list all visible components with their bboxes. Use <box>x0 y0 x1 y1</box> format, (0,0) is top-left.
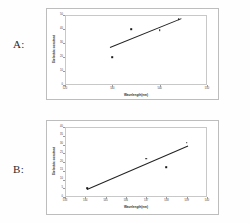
x-axis-title: Wavelength(nm) <box>65 93 207 97</box>
x-tick-mark <box>146 197 147 199</box>
y-tick-label: 50 <box>55 14 63 17</box>
data-point <box>112 56 114 58</box>
y-tick-mark <box>63 29 65 30</box>
data-point <box>166 166 168 168</box>
y-tick-label: 20 <box>55 56 63 59</box>
y-tick-mark <box>63 171 65 172</box>
x-axis-title: Wavelength(nm) <box>65 205 207 209</box>
x-tick-mark <box>207 85 208 87</box>
x-tick-label: 540 <box>201 200 213 203</box>
y-tick-mark <box>63 136 65 137</box>
x-tick-mark <box>187 197 188 199</box>
data-point <box>145 158 147 160</box>
y-tick-mark <box>63 145 65 146</box>
x-tick-mark <box>112 85 113 87</box>
y-tick-mark <box>63 43 65 44</box>
x-tick-mark <box>160 85 161 87</box>
chart-b-frame: 0510152025303540533534535536537538539540… <box>46 120 219 215</box>
y-tick-mark <box>63 180 65 181</box>
y-tick-label: 40 <box>55 28 63 31</box>
y-tick-label: 15 <box>55 169 63 172</box>
figure-canvas: A: 01020304050520530540550Wavelength(nm)… <box>0 0 250 223</box>
y-tick-mark <box>63 57 65 58</box>
panel-label-a: A: <box>13 38 25 50</box>
x-tick-label: 540 <box>154 88 166 91</box>
x-tick-label: 538 <box>160 200 172 203</box>
x-tick-label: 537 <box>140 200 152 203</box>
y-tick-label: 40 <box>55 126 63 129</box>
y-tick-label: 30 <box>55 143 63 146</box>
y-tick-label: 0 <box>55 84 63 87</box>
y-tick-label: 30 <box>55 42 63 45</box>
x-tick-label: 534 <box>79 200 91 203</box>
y-tick-label: 35 <box>55 134 63 137</box>
x-tick-mark <box>166 197 167 199</box>
data-point <box>87 187 89 189</box>
data-point <box>186 142 188 144</box>
data-point <box>178 18 180 20</box>
y-tick-mark <box>63 15 65 16</box>
x-tick-mark <box>207 197 208 199</box>
x-tick-label: 535 <box>100 200 112 203</box>
x-tick-label: 533 <box>59 200 71 203</box>
x-tick-label: 539 <box>181 200 193 203</box>
y-tick-mark <box>63 188 65 189</box>
x-tick-mark <box>126 197 127 199</box>
x-tick-label: 520 <box>59 88 71 91</box>
y-tick-mark <box>63 162 65 163</box>
x-tick-label: 530 <box>106 88 118 91</box>
y-tick-mark <box>63 71 65 72</box>
y-tick-label: 25 <box>55 152 63 155</box>
x-tick-mark <box>65 197 66 199</box>
chart-a-plot-area <box>65 15 207 85</box>
y-tick-label: 5 <box>55 187 63 190</box>
x-tick-mark <box>106 197 107 199</box>
y-tick-label: 10 <box>55 178 63 181</box>
panel-label-b: B: <box>13 163 24 175</box>
y-axis-title: Dielectric constant <box>52 147 56 175</box>
y-axis-title: Dielectric constant <box>52 35 56 63</box>
x-tick-label: 536 <box>120 200 132 203</box>
y-tick-label: 0 <box>55 196 63 199</box>
x-tick-mark <box>65 85 66 87</box>
data-point <box>130 28 132 30</box>
chart-a-frame: 01020304050520530540550Wavelength(nm)Die… <box>46 8 219 100</box>
data-point <box>159 30 161 32</box>
x-tick-label: 550 <box>201 88 213 91</box>
y-tick-label: 10 <box>55 70 63 73</box>
y-tick-mark <box>63 153 65 154</box>
y-tick-label: 20 <box>55 161 63 164</box>
y-tick-mark <box>63 127 65 128</box>
x-tick-mark <box>85 197 86 199</box>
